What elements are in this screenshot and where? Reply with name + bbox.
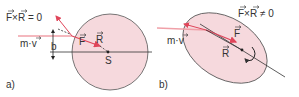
distance-label: b	[51, 41, 57, 52]
momentum-label-b: m·v	[167, 35, 184, 46]
distance-arrow-bottom-icon	[51, 56, 55, 60]
formula-b: F×R ≠ 0	[238, 8, 274, 19]
force-label-b: F	[234, 28, 240, 39]
force-label-a: F	[79, 36, 85, 47]
panel-b: F×R ≠ 0 m·v F R b)	[157, 0, 285, 97]
collision-diagram: F×R = 0 m·v b F R S a) F×R ≠ 0 m·v F R b…	[0, 0, 299, 97]
panel-a: F×R = 0 m·v b F R S a)	[6, 10, 152, 91]
formula-a: F×R = 0	[6, 12, 43, 23]
momentum-label-a: m·v	[20, 38, 37, 49]
force-arrow	[56, 16, 72, 36]
center-point	[107, 51, 110, 54]
radius-label-b: R	[222, 48, 229, 59]
panel-a-label: a)	[6, 79, 15, 90]
center-point-b	[241, 49, 244, 52]
panel-b-label: b)	[159, 79, 168, 90]
distance-arrow-top-icon	[51, 29, 55, 33]
radius-label-a: R	[96, 34, 103, 45]
center-label: S	[105, 55, 112, 66]
